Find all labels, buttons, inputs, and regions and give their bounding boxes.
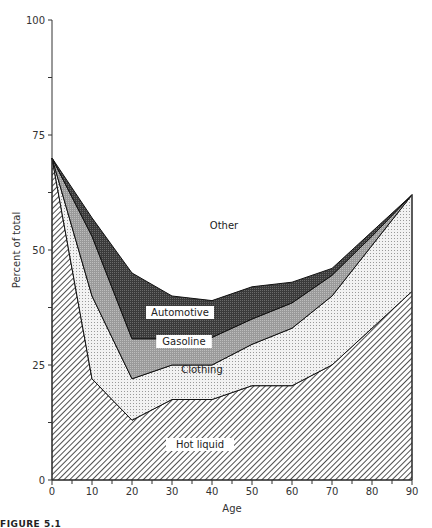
y-tick-label: 25 xyxy=(32,360,45,371)
stacked-area-chart: 02550751000102030405060708090AgePercent … xyxy=(0,0,432,528)
label-automotive: Automotive xyxy=(151,307,209,318)
x-tick-label: 0 xyxy=(49,486,55,497)
x-tick-label: 80 xyxy=(366,486,379,497)
y-tick-label: 100 xyxy=(26,15,45,26)
x-tick-label: 20 xyxy=(126,486,139,497)
x-tick-label: 60 xyxy=(286,486,299,497)
label-gasoline: Gasoline xyxy=(162,336,205,347)
x-tick-label: 70 xyxy=(326,486,339,497)
y-axis-title: Percent of total xyxy=(11,212,22,289)
x-tick-label: 90 xyxy=(406,486,419,497)
x-tick-label: 40 xyxy=(206,486,219,497)
x-axis-title: Age xyxy=(222,503,241,514)
area-layers xyxy=(52,158,412,480)
y-tick-label: 50 xyxy=(32,245,45,256)
figure-caption: FIGURE 5.1 xyxy=(0,519,61,528)
x-tick-label: 30 xyxy=(166,486,179,497)
x-tick-label: 10 xyxy=(86,486,99,497)
y-tick-label: 0 xyxy=(39,475,45,486)
y-tick-label: 75 xyxy=(32,130,45,141)
label-clothing: Clothing xyxy=(181,364,223,375)
label-hot-liquid: Hot liquid xyxy=(176,439,224,450)
label-other: Other xyxy=(210,220,239,231)
x-tick-label: 50 xyxy=(246,486,259,497)
